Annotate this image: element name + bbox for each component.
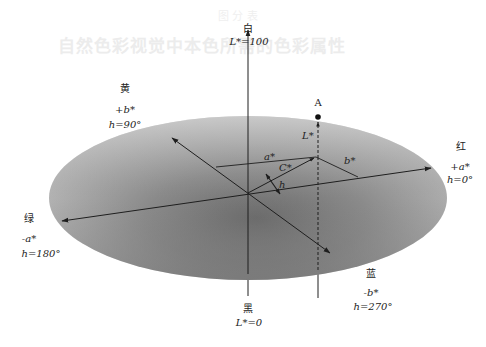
point-a-label: A — [311, 96, 325, 109]
lightness-label: L* — [302, 130, 314, 141]
blue-axis: -b* — [356, 286, 386, 299]
cielab-diagram: 图 分 表 自然色彩视觉中本色所需的色彩属性 — [0, 0, 486, 347]
white-value: L*=100 — [229, 36, 268, 47]
yellow-label: 黄 — [100, 82, 150, 95]
green-angle: h=180° — [16, 247, 66, 260]
yellow-axis: +b* — [100, 103, 150, 116]
black-pole-label: 黑 — [228, 302, 268, 315]
red-angle: h=0° — [441, 173, 479, 186]
b-component-label: b* — [344, 155, 355, 166]
yellow-name: 黄 — [100, 82, 150, 95]
hue-label: h — [279, 179, 285, 190]
green-label: 绿 — [14, 212, 44, 225]
green-axis: -a* — [14, 232, 44, 245]
point-a — [315, 114, 321, 120]
blue-angle: h=270° — [348, 300, 398, 313]
diagram-canvas — [0, 0, 486, 347]
black-pole-value: L*=0 — [224, 316, 274, 329]
yellow-angle: h=90° — [100, 118, 150, 131]
red-axis: +a* — [443, 160, 477, 173]
white-name: 白 — [228, 22, 268, 35]
blue-label: 蓝 — [356, 267, 386, 280]
chroma-label: C* — [279, 162, 292, 173]
white-pole-label: 白 — [228, 22, 268, 35]
red-label: 红 — [446, 140, 476, 153]
a-component-label: a* — [264, 151, 275, 162]
white-pole-value: L*=100 — [224, 35, 274, 48]
